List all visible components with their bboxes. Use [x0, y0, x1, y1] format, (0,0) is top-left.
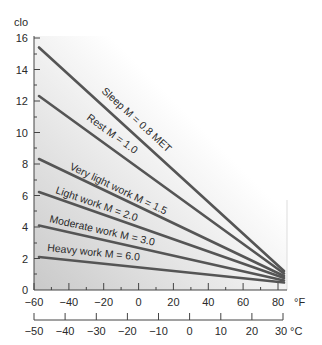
svg-text:20: 20: [167, 296, 179, 308]
svg-text:20: 20: [246, 325, 258, 337]
clo-vs-temperature-chart: 16 14 12 10 8 6 4 2 0 clo −60 −40 −20 0 …: [0, 0, 322, 345]
svg-text:0: 0: [187, 325, 193, 337]
svg-text:6: 6: [22, 190, 28, 202]
svg-text:−60: −60: [25, 296, 44, 308]
svg-text:10: 10: [215, 325, 227, 337]
y-axis-unit: clo: [14, 16, 28, 28]
x-tick-labels-celsius: −50 −40 −30 −20 −10 0 10 20 30: [25, 325, 287, 337]
svg-text:−30: −30: [87, 325, 106, 337]
svg-text:10: 10: [16, 127, 28, 139]
x-tick-labels-fahrenheit: −60 −40 −20 0 20 40 60 80: [25, 296, 284, 308]
x-axis-celsius: [34, 313, 283, 320]
svg-text:−20: −20: [118, 325, 137, 337]
svg-text:4: 4: [22, 221, 28, 233]
svg-text:−40: −40: [56, 325, 75, 337]
svg-text:0: 0: [136, 296, 142, 308]
svg-text:40: 40: [202, 296, 214, 308]
fahrenheit-unit: °F: [294, 296, 305, 308]
svg-text:−40: −40: [60, 296, 79, 308]
svg-text:−20: −20: [94, 296, 113, 308]
svg-text:−10: −10: [149, 325, 168, 337]
svg-text:12: 12: [16, 95, 28, 107]
svg-text:80: 80: [272, 296, 284, 308]
svg-text:−50: −50: [25, 325, 44, 337]
svg-text:14: 14: [16, 64, 28, 76]
celsius-unit: °C: [290, 325, 302, 337]
y-tick-labels: 16 14 12 10 8 6 4 2 0: [16, 32, 28, 296]
svg-text:60: 60: [237, 296, 249, 308]
svg-text:0: 0: [22, 284, 28, 296]
svg-text:30: 30: [275, 325, 287, 337]
svg-text:16: 16: [16, 32, 28, 44]
svg-text:2: 2: [22, 253, 28, 265]
svg-text:8: 8: [22, 158, 28, 170]
